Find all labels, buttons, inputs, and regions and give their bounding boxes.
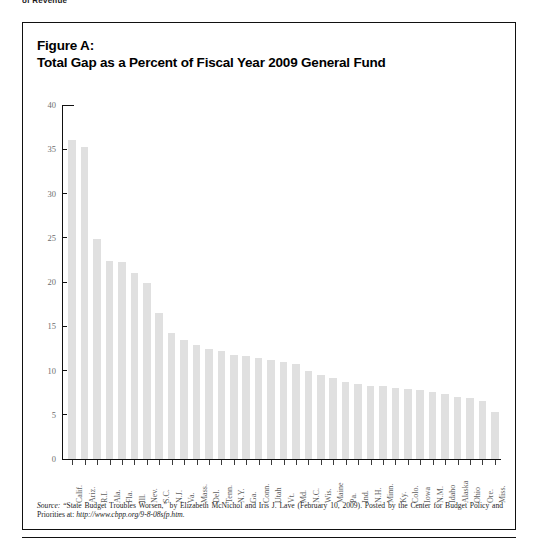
bar-utah	[267, 360, 275, 459]
bar-sc	[155, 313, 163, 459]
bar-nm	[429, 392, 437, 459]
bar-nev	[143, 283, 151, 459]
x-axis-tick-mark	[234, 460, 235, 465]
x-axis-tick-mark	[209, 460, 210, 465]
bar-iowa	[416, 390, 424, 459]
x-axis-tick-mark	[358, 460, 359, 465]
y-axis-tick-mark	[63, 326, 67, 327]
x-axis-tick-mark	[134, 460, 135, 465]
bar-ill	[131, 273, 139, 459]
bar-ny	[230, 355, 238, 459]
bar-minn	[379, 386, 387, 459]
y-axis-tick-mark	[63, 193, 67, 194]
bar-colo	[404, 389, 412, 459]
x-axis-tick-mark	[97, 460, 98, 465]
x-axis-tick-mark	[495, 460, 496, 465]
bar-miss	[491, 412, 499, 459]
bar-ore	[479, 401, 487, 459]
x-axis-tick-mark	[383, 460, 384, 465]
x-axis-tick-mark	[72, 460, 73, 465]
bar-ri	[93, 239, 101, 459]
bar-md	[292, 364, 300, 459]
bar-fla	[118, 262, 126, 459]
bar-ga	[242, 356, 250, 459]
source-url: http://www.cbpp.org/9-8-08sfp.htm.	[76, 510, 184, 519]
x-axis-tick-mark	[147, 460, 148, 465]
bottom-rule	[22, 537, 516, 538]
y-axis-tick-label: 30	[38, 189, 56, 199]
bar-calif	[68, 140, 76, 459]
x-axis-tick-mark	[122, 460, 123, 465]
x-axis-tick-mark	[159, 460, 160, 465]
x-axis-tick-mark	[420, 460, 421, 465]
bar-ind	[354, 384, 362, 459]
x-axis-tick-mark	[85, 460, 86, 465]
y-axis-tick-mark	[63, 149, 67, 150]
y-axis-tick-mark	[63, 282, 67, 283]
bar-vt	[280, 362, 288, 459]
x-axis-tick-mark	[308, 460, 309, 465]
x-axis-tick-label: Alaska	[461, 481, 470, 503]
source-label: Source:	[37, 501, 60, 510]
x-axis-tick-mark	[445, 460, 446, 465]
y-axis-tick-label: 25	[38, 233, 56, 243]
y-axis-tick-label: 10	[38, 366, 56, 376]
bar-pa	[342, 382, 350, 459]
bar-mass	[193, 345, 201, 459]
y-axis-tick-label: 5	[38, 410, 56, 420]
x-axis-tick-mark	[371, 460, 372, 465]
bar-conn	[255, 358, 263, 459]
bar-chart-plot: 0510152025303540Calif.Ariz.R.I.Ala.Fla.I…	[23, 23, 517, 531]
x-axis-tick-mark	[346, 460, 347, 465]
x-axis-tick-mark	[482, 460, 483, 465]
x-axis-tick-mark	[271, 460, 272, 465]
x-axis-tick-mark	[408, 460, 409, 465]
x-axis-tick-mark	[433, 460, 434, 465]
x-axis-tick-mark	[221, 460, 222, 465]
bar-nj	[168, 333, 176, 459]
bar-wis	[317, 375, 325, 459]
bar-ala	[106, 261, 114, 459]
x-axis-tick-mark	[395, 460, 396, 465]
x-axis-tick-mark	[333, 460, 334, 465]
bar-del	[205, 349, 213, 459]
x-axis-tick-mark	[321, 460, 322, 465]
bar-maine	[329, 378, 337, 459]
source-note: Source: “State Budget Troubles Worsen,” …	[37, 501, 503, 520]
x-axis-tick-mark	[184, 460, 185, 465]
x-axis-tick-mark	[197, 460, 198, 465]
bar-nc	[305, 371, 313, 460]
x-axis-line	[62, 459, 501, 460]
bar-va	[180, 340, 188, 459]
bar-ky	[392, 388, 400, 459]
bar-nh	[367, 386, 375, 459]
running-head: of Revenue	[22, 0, 67, 4]
x-axis-tick-mark	[110, 460, 111, 465]
y-axis-tick-mark	[63, 459, 67, 460]
bar-ariz	[81, 147, 89, 459]
figure-container: Figure A: Total Gap as a Percent of Fisc…	[22, 22, 516, 530]
y-axis-tick-label: 35	[38, 144, 56, 154]
x-axis-tick-mark	[172, 460, 173, 465]
y-axis-tick-mark	[63, 414, 67, 415]
bar-tenn	[218, 351, 226, 459]
x-axis-tick-mark	[284, 460, 285, 465]
bar-idaho	[441, 394, 449, 459]
bar-alaska	[454, 397, 462, 459]
bar-ohio	[466, 398, 474, 459]
x-axis-tick-mark	[458, 460, 459, 465]
y-axis-tick-label: 0	[38, 454, 56, 464]
y-axis-top-stub	[62, 105, 74, 106]
y-axis-tick-label: 15	[38, 321, 56, 331]
x-axis-tick-mark	[259, 460, 260, 465]
x-axis-tick-mark	[246, 460, 247, 465]
y-axis-tick-mark	[63, 237, 67, 238]
y-axis-tick-label: 20	[38, 277, 56, 287]
x-axis-tick-mark	[470, 460, 471, 465]
y-axis-tick-label: 40	[38, 100, 56, 110]
x-axis-tick-mark	[296, 460, 297, 465]
y-axis-tick-mark	[63, 370, 67, 371]
